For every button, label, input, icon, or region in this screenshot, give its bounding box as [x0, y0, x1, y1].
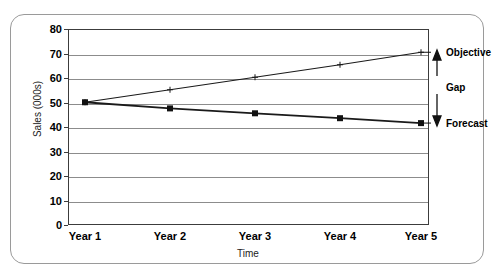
- x-tick-year-2: Year 2: [130, 231, 210, 242]
- y-axis-title: Sales (000s): [33, 59, 43, 159]
- x-tick-year-4: Year 4: [300, 231, 380, 242]
- callout-forecast: Forecast: [446, 119, 488, 129]
- gap-arrow: [433, 50, 441, 126]
- series-objective-markers: [82, 49, 424, 105]
- chart-figure: 80 70 60 50 40 30 20 10 0 Year 1 Year 2 …: [0, 0, 497, 279]
- x-tick-year-1: Year 1: [45, 231, 125, 242]
- series-forecast-markers: [82, 99, 424, 126]
- x-tick-year-3: Year 3: [215, 231, 295, 242]
- x-tick-year-5: Year 5: [381, 231, 461, 242]
- callout-leaders: [421, 52, 431, 123]
- callout-objective: Objective: [446, 48, 491, 58]
- callout-gap: Gap: [446, 83, 465, 93]
- x-axis-title: Time: [208, 249, 288, 259]
